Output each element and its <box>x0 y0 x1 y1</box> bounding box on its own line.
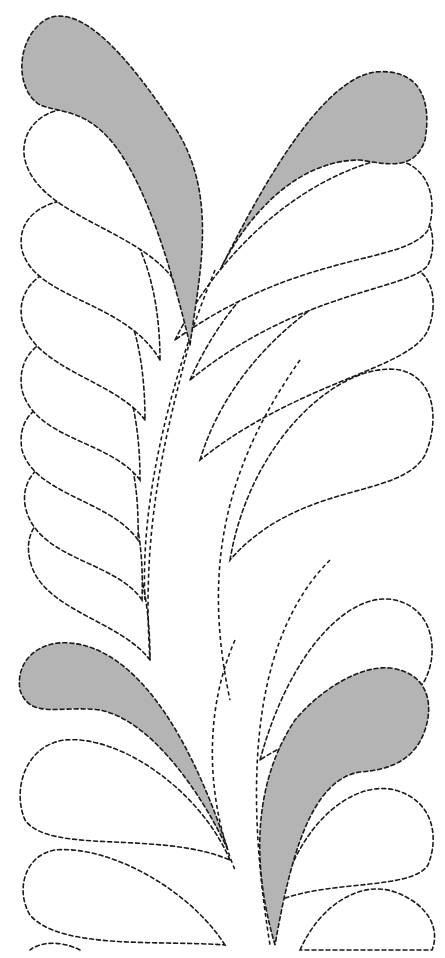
left-plume <box>30 943 80 950</box>
bottom-left-plumes <box>20 740 230 950</box>
left-plume <box>23 850 225 945</box>
left-plume <box>20 740 230 860</box>
feather-quilting-pattern <box>0 0 445 958</box>
right-plume <box>300 889 435 950</box>
